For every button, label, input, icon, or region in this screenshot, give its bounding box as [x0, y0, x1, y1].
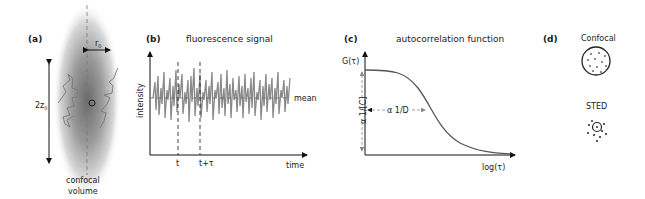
b-xlabel: time	[286, 161, 304, 170]
panel-b-label: (b)	[146, 34, 161, 44]
t-tau-label: t+τ	[199, 159, 214, 168]
panel-d: (d) Confocal STED	[543, 34, 616, 142]
panel-d-label: (d)	[543, 34, 558, 44]
sted-spot-icon	[587, 120, 607, 142]
amp-label: α 1/[C]	[359, 97, 368, 124]
figure-canvas: (a) r0 2z0 confocal volume (b) fluoresce…	[0, 0, 645, 199]
width-label: α 1/D	[387, 106, 409, 115]
panel-b-title: fluorescence signal	[186, 34, 273, 44]
b-ylabel: intensity	[136, 83, 145, 118]
caption-line2: volume	[68, 187, 98, 196]
z0-label: 2z0	[35, 101, 47, 111]
sted-label: STED	[586, 102, 607, 111]
panel-c-title: autocorrelation function	[396, 34, 504, 44]
confocal-label: Confocal	[581, 34, 616, 43]
mean-label: mean	[294, 94, 317, 103]
panel-a: (a) r0 2z0 confocal volume	[28, 2, 121, 198]
caption-line1: confocal	[66, 176, 100, 185]
c-ylabel: G(τ)	[342, 57, 359, 66]
panel-c: (c) autocorrelation function G(τ) log(τ)…	[342, 34, 515, 172]
intensity-trace	[153, 68, 290, 122]
c-xlabel: log(τ)	[482, 163, 505, 172]
confocal-spot-icon	[582, 47, 610, 75]
t-label: t	[176, 159, 179, 168]
panel-a-label: (a)	[28, 34, 42, 44]
panel-c-label: (c)	[344, 34, 358, 44]
panel-b: (b) fluorescence signal intensity time m…	[136, 34, 317, 170]
